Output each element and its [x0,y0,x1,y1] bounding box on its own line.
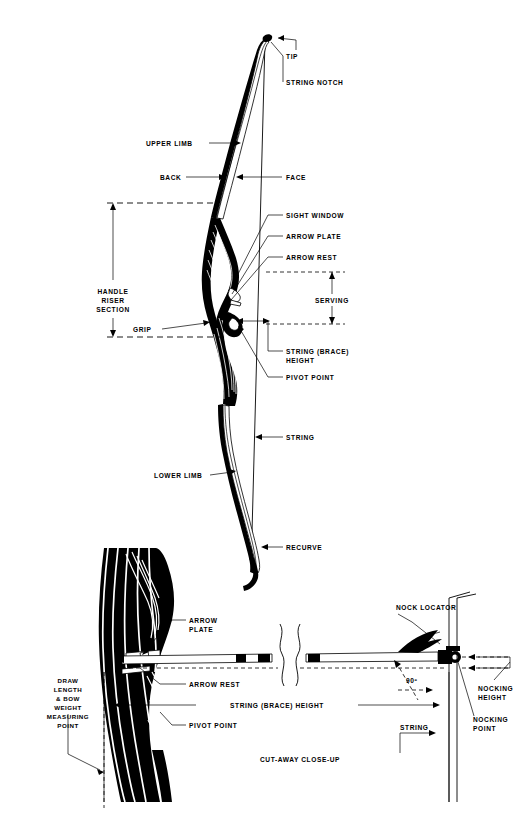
callout-back: BACK [160,174,226,181]
pivot-point-leader [240,329,283,377]
break-wave-left [280,624,284,686]
angle-arrowhead [426,687,433,693]
serving-arrow-top [329,272,335,279]
nocking-point-leader [458,662,474,716]
recurve-arrowhead [261,544,268,550]
closeup-brace-label: STRING (BRACE) HEIGHT [230,702,324,710]
arrow-plate-leader [232,236,283,294]
brace-height-measure: STRING (BRACE) HEIGHT [236,318,349,364]
nocking-height-leader [494,662,510,680]
arrow-crest-band-b [258,654,270,662]
draw-measure-line2: LENGTH [54,686,82,693]
sight-window-leader [233,215,283,284]
callout-tip: TIP [278,35,298,60]
handle-riser-label-line1: HANDLE [97,288,128,295]
closeup-brace-arrow-right [433,702,440,708]
callout-grip: GRIP [133,320,210,333]
callout-recurve: RECURVE [261,544,322,551]
draw-measure-line1: DRAW [58,677,79,684]
shaft-break-symbol [280,624,300,686]
handle-riser-label-line2: RISER [101,297,124,304]
grip-label: GRIP [133,326,152,333]
serving-arrow-bottom [329,317,335,324]
angle-indicator: 90º [394,660,433,700]
bow-diagram-page: TIP STRING NOTCH UPPER LIMB BACK FACE [0,0,528,825]
grip-leader [162,323,206,329]
arrow-plate-label: ARROW PLATE [286,233,341,240]
draw-measure-line5: MEASURING [47,713,89,720]
callout-upper-limb: UPPER LIMB [146,140,241,147]
nock-locator-label: NOCK LOCATOR [396,604,456,611]
nocking-height-arrow-top [468,654,475,660]
draw-measure-arrowhead [97,769,104,775]
arrow-crest-band-c [308,654,320,662]
callout-face: FACE [236,174,306,181]
nock-locator-band [446,646,460,651]
callout-arrow-plate: ARROW PLATE [232,233,341,294]
lower-limb-label: LOWER LIMB [154,472,203,479]
string-label: STRING [286,434,315,441]
face-label: FACE [286,174,306,181]
tip-label: TIP [286,53,298,60]
angle-label: 90º [406,677,418,684]
face-arrowhead [236,174,243,180]
serving-measure: SERVING [266,272,349,324]
string-notch-leader [271,42,283,82]
nocking-height-arrow-bottom [468,665,475,671]
brace-height-label-line2: HEIGHT [286,357,315,364]
callout-arrow-rest: ARROW REST [231,254,337,300]
closeup-pivot-point-label: PIVOT POINT [189,722,237,729]
callout-lower-limb: LOWER LIMB [154,469,236,479]
callout-nocking-height: NOCKING HEIGHT [468,654,513,701]
riser-handle-group [202,217,243,406]
brace-height-arrow-right [263,318,270,324]
closeup-string-label: STRING [400,724,429,731]
draw-measure-line4: WEIGHT [54,704,82,711]
tip-arrowhead [278,35,284,41]
callout-string: STRING [255,434,315,441]
cutaway-caption: CUT-AWAY CLOSE-UP [260,756,340,763]
closeup-arrow-rest-label: ARROW REST [189,681,240,688]
handle-riser-arrow-top [110,203,116,210]
serving-label: SERVING [315,297,349,304]
sight-window-label: SIGHT WINDOW [286,212,344,219]
nocking-height-line2: HEIGHT [478,694,507,701]
callout-sight-window: SIGHT WINDOW [233,212,344,284]
string-arrowhead [255,434,262,440]
closeup-string-group [446,592,476,802]
bow-string-group [251,40,265,571]
back-label: BACK [160,174,181,181]
nocking-point-line2: POINT [473,725,496,732]
handle-riser-label-line3: SECTION [96,306,130,313]
callout-closeup-string: STRING [400,724,436,753]
cutaway-riser-group [99,548,174,802]
nocking-height-line1: NOCKING [478,685,513,692]
closeup-string-arrowhead [429,730,436,736]
pivot-point-label: PIVOT POINT [286,374,334,381]
arrow-shaft-left-body [122,654,272,664]
upper-limb-label: UPPER LIMB [146,140,193,147]
closeup-pivot-point-leader [160,712,186,725]
upper-tip [263,34,273,42]
closeup-arrow-plate-line1: ARROW [189,617,218,624]
closeup-arrow-plate-line2: PLATE [189,626,213,633]
nocking-point-line1: NOCKING [473,716,508,723]
callout-string-notch: STRING NOTCH [271,42,343,86]
arrow-shaft-left [118,654,272,664]
break-wave-right [296,624,300,686]
recurve-label: RECURVE [286,544,322,551]
arrow-rest-label: ARROW REST [286,254,337,261]
lower-limb-group [218,404,260,591]
diagram-canvas: TIP STRING NOTCH UPPER LIMB BACK FACE [0,0,528,825]
arrow-shaft-right-body [306,652,438,662]
arrow-crest-band-a [236,654,246,662]
callout-draw-measure: DRAW LENGTH & BOW WEIGHT MEASURING POINT [47,672,104,808]
arrow-shaft-right [306,630,461,664]
string-line [251,40,265,571]
brace-height-label-line1: STRING (BRACE) [286,348,349,356]
lower-limb-face-edge [223,405,260,573]
draw-measure-line6: POINT [57,722,78,729]
tip-leader [278,38,296,50]
draw-measure-line3: & BOW [56,695,80,702]
string-notch-label: STRING NOTCH [286,79,343,86]
